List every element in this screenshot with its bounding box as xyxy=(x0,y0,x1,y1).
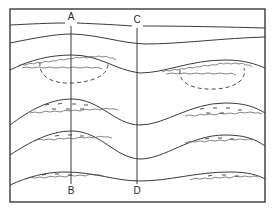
reservoir-dashes-right-2 xyxy=(200,108,244,113)
reservoir-dashes-right-4 xyxy=(208,175,241,176)
reservoir-fill-right-1b xyxy=(166,73,236,75)
reservoir-fill-left-4 xyxy=(25,174,103,179)
reservoir-dashes-left-2 xyxy=(45,103,90,109)
label-b: B xyxy=(68,185,75,196)
reservoir-fill-right-4 xyxy=(190,176,258,180)
reservoir-outline-left xyxy=(40,62,108,83)
reservoir-dashes-right-3 xyxy=(205,138,236,139)
reservoir-fill-right-3 xyxy=(185,139,253,143)
reservoir-fill-left-1b xyxy=(22,67,102,69)
label-c: C xyxy=(133,14,140,25)
reservoir-outline-right xyxy=(180,68,245,89)
reservoir-dashes-left-4 xyxy=(42,174,74,175)
cross-section-diagram: A B C D xyxy=(0,0,275,215)
label-d: D xyxy=(133,185,140,196)
label-a: A xyxy=(68,11,75,22)
